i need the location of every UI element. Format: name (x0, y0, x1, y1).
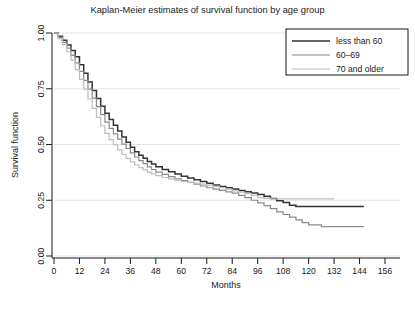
y-tick-label: 0.50 (36, 136, 46, 153)
x-tick-label: 72 (202, 266, 212, 276)
x-tick-label: 84 (227, 266, 237, 276)
x-tick-label: 96 (253, 266, 263, 276)
x-tick-label: 108 (276, 266, 291, 276)
x-tick-label: 24 (100, 266, 110, 276)
x-tick-label: 144 (352, 266, 367, 276)
y-tick-label: 0.00 (36, 247, 46, 264)
legend-label: 70 and older (336, 64, 384, 74)
y-tick-label: 1.00 (36, 24, 46, 41)
x-axis-ticks: 01224364860728496108120132144156 (52, 258, 393, 276)
x-tick-label: 120 (301, 266, 316, 276)
x-tick-label: 0 (52, 266, 57, 276)
x-tick-label: 60 (177, 266, 187, 276)
x-tick-label: 48 (151, 266, 161, 276)
y-tick-label: 0.75 (36, 80, 46, 97)
x-tick-label: 12 (75, 266, 85, 276)
legend-label: less than 60 (336, 36, 383, 46)
chart-container: Kaplan-Meier estimates of survival funct… (0, 0, 415, 309)
chart-title: Kaplan-Meier estimates of survival funct… (90, 5, 324, 15)
x-tick-label: 36 (126, 266, 136, 276)
y-axis-ticks: 0.000.250.500.751.00 (36, 24, 52, 264)
legend-label: 60–69 (336, 50, 360, 60)
kaplan-meier-plot: Kaplan-Meier estimates of survival funct… (0, 0, 415, 309)
y-axis-title: Survival function (10, 112, 20, 178)
x-tick-label: 156 (378, 266, 393, 276)
y-tick-label: 0.25 (36, 192, 46, 209)
x-tick-label: 132 (327, 266, 342, 276)
x-axis-title: Months (211, 280, 241, 290)
